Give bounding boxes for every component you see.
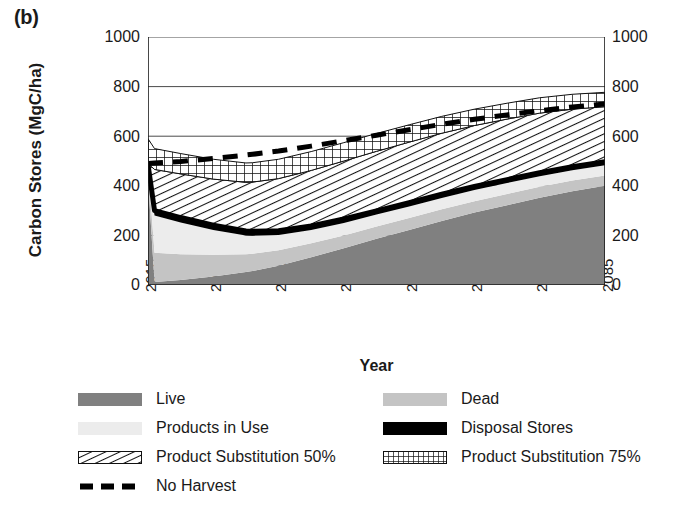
figure-panel-b: (b) Carbon Stores (MgC/ha) Year 0 200 40… xyxy=(0,0,684,526)
y-tick-left-400: 400 xyxy=(84,178,140,194)
legend-label: Live xyxy=(156,390,185,408)
y-axis-title: Carbon Stores (MgC/ha) xyxy=(26,40,46,280)
y-tick-left-200: 200 xyxy=(84,228,140,244)
y-tick-left-800: 800 xyxy=(84,79,140,95)
legend-row: Live Dead xyxy=(78,390,668,408)
legend-label: Product Substitution 50% xyxy=(156,448,336,466)
products-in-use-swatch-icon xyxy=(78,422,142,435)
y-tick-right-200: 200 xyxy=(612,228,672,244)
legend-row: Products in Use Disposal Stores xyxy=(78,419,668,437)
y-tick-left-1000: 1000 xyxy=(84,29,140,45)
y-tick-right-1000: 1000 xyxy=(612,29,672,45)
legend-label: Dead xyxy=(461,390,499,408)
product-substitution-75-swatch-icon xyxy=(383,451,447,464)
legend-item-dead[interactable]: Dead xyxy=(383,390,668,408)
y-tick-right-400: 400 xyxy=(612,178,672,194)
y-tick-left-0: 0 xyxy=(84,277,140,293)
stacked-area-chart xyxy=(148,37,605,285)
disposal-stores-swatch-icon xyxy=(383,422,447,435)
chart-legend: Live Dead Products in Use Disposal S xyxy=(78,390,668,506)
legend-label: Product Substitution 75% xyxy=(461,448,641,466)
x-axis-title: Year xyxy=(148,357,605,375)
legend-item-disposal-stores[interactable]: Disposal Stores xyxy=(383,419,668,437)
dead-swatch-icon xyxy=(383,393,447,406)
legend-item-no-harvest[interactable]: No Harvest xyxy=(78,477,383,495)
legend-label: Products in Use xyxy=(156,419,269,437)
legend-item-products-in-use[interactable]: Products in Use xyxy=(78,419,383,437)
live-swatch-icon xyxy=(78,393,142,406)
area-series-group xyxy=(148,92,605,285)
legend-item-product-substitution-75[interactable]: Product Substitution 75% xyxy=(383,448,668,466)
legend-item-live[interactable]: Live xyxy=(78,390,383,408)
legend-item-product-substitution-50[interactable]: Product Substitution 50% xyxy=(78,448,383,466)
legend-label: No Harvest xyxy=(156,477,236,495)
y-tick-right-800: 800 xyxy=(612,79,672,95)
plot-area xyxy=(148,37,605,285)
no-harvest-swatch-icon xyxy=(78,480,142,493)
y-tick-right-0: 0 xyxy=(612,277,672,293)
y-tick-right-600: 600 xyxy=(612,129,672,145)
panel-label: (b) xyxy=(14,6,39,29)
legend-row: No Harvest xyxy=(78,477,668,495)
y-tick-left-600: 600 xyxy=(84,129,140,145)
product-substitution-50-swatch-icon xyxy=(78,451,142,464)
legend-row: Product Substitution 50% Product Substit… xyxy=(78,448,668,466)
legend-label: Disposal Stores xyxy=(461,419,573,437)
